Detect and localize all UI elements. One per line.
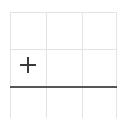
grid-vertical-2: [82, 12, 83, 118]
grid-horizontal-1: [10, 49, 117, 50]
grid-vertical-1: [46, 12, 47, 118]
plus-marker-vertical-stroke: [27, 57, 29, 73]
grid-vertical-0: [10, 12, 11, 118]
plot-canvas: [0, 0, 127, 125]
grid-horizontal-0: [10, 12, 117, 13]
grid-vertical-3: [116, 12, 117, 118]
axis-horizontal-rule: [10, 86, 117, 88]
plus-marker: [20, 57, 36, 73]
